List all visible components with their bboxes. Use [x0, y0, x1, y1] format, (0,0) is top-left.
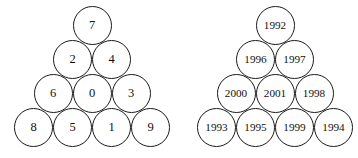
- circle-1999: 1999: [275, 108, 314, 147]
- circle-label: 1996: [244, 53, 266, 64]
- circle-label: 1997: [283, 53, 305, 64]
- circle-label: 1998: [303, 87, 325, 98]
- circle-1996: 1996: [236, 40, 275, 79]
- circle-1998: 1998: [295, 74, 334, 113]
- circle-label: 2001: [264, 87, 286, 98]
- circle-2001: 2001: [256, 74, 295, 113]
- circle-label: 1993: [205, 121, 227, 132]
- circle-label: 1995: [244, 121, 266, 132]
- circle-label: 1999: [283, 121, 305, 132]
- circle-label: 1992: [264, 19, 286, 30]
- circle-2000: 2000: [217, 74, 256, 113]
- circle-1992: 1992: [256, 6, 295, 45]
- circle-label: 1994: [322, 121, 344, 132]
- circle-1995: 1995: [236, 108, 275, 147]
- circle-1994: 1994: [314, 108, 353, 147]
- right-pyramid: 1993199519991994200020011998199619971992: [0, 0, 358, 158]
- circle-label: 2000: [225, 87, 247, 98]
- circle-1997: 1997: [275, 40, 314, 79]
- figure-canvas: 8519603247 19931995199919942000200119981…: [0, 0, 358, 158]
- circle-1993: 1993: [197, 108, 236, 147]
